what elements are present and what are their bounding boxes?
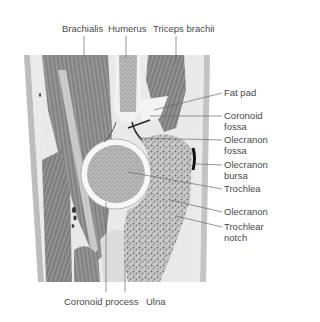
humerus-shaft [114, 55, 142, 122]
label-olecranon-fossa: Olecranon fossa [224, 134, 268, 156]
label-brachialis: Brachialis [62, 23, 103, 34]
label-line: fossa [224, 121, 263, 132]
label-line: Coronoid [224, 110, 263, 121]
label-coronoid-fossa: Coronoid fossa [224, 110, 263, 132]
label-fat-pad: Fat pad [224, 87, 256, 98]
label-olecranon: Olecranon [224, 206, 268, 217]
label-line: Trochlear [224, 221, 264, 232]
label-line: fossa [224, 145, 268, 156]
label-humerus: Humerus [108, 23, 147, 34]
label-trochlea: Trochlea [224, 183, 261, 194]
label-coronoid-process: Coronoid process [64, 296, 138, 307]
label-line: Olecranon [224, 134, 268, 145]
label-line: Trochlea [224, 183, 261, 194]
olecranon-bursa [193, 148, 195, 170]
label-line: Olecranon [224, 206, 268, 217]
label-line: notch [224, 232, 264, 243]
label-ulna: Ulna [146, 296, 166, 307]
label-line: Olecranon [224, 159, 268, 170]
label-triceps-brachii: Triceps brachii [153, 23, 214, 34]
label-trochlear-notch: Trochlear notch [224, 221, 264, 243]
label-olecranon-bursa: Olecranon bursa [224, 159, 268, 181]
label-line: Fat pad [224, 87, 256, 98]
label-line: bursa [224, 170, 268, 181]
coronoid-process [100, 230, 124, 282]
